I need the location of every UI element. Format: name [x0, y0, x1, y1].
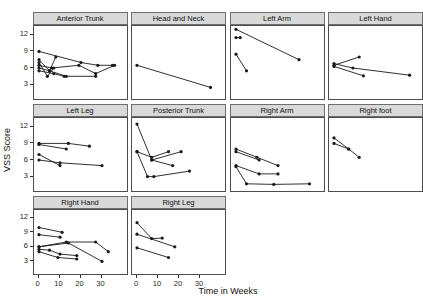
data-point	[307, 182, 310, 185]
facet-panel	[328, 25, 423, 100]
y-axis-tick-label: 9	[14, 47, 28, 55]
y-axis-tick-label: 12	[14, 30, 28, 38]
data-line	[137, 234, 175, 247]
facet-plot-area	[329, 118, 422, 191]
data-point	[58, 253, 61, 256]
data-point	[276, 164, 279, 167]
y-axis-tick-mark	[30, 84, 33, 85]
data-point	[332, 142, 335, 145]
data-point	[297, 58, 300, 61]
data-line	[39, 235, 60, 238]
x-axis-tick-label: 30	[93, 280, 109, 288]
facet-label: Left Hand	[359, 15, 392, 23]
x-axis-tick-mark	[101, 275, 102, 278]
x-axis-tick-mark	[59, 275, 60, 278]
facet-strip: Posterior Trunk	[131, 104, 226, 117]
data-point	[37, 143, 40, 146]
facet-panel	[33, 117, 128, 192]
facet-head-and-neck: Head and Neck	[131, 12, 226, 100]
data-point	[37, 233, 40, 236]
y-axis-tick-mark	[30, 176, 33, 177]
facet-plot-area	[132, 210, 225, 274]
facet-label: Anterior Trunk	[56, 15, 103, 23]
data-point	[54, 55, 57, 58]
facet-panel	[230, 25, 325, 100]
x-axis-tick-mark	[38, 275, 39, 278]
data-point	[135, 123, 138, 126]
y-axis-tick-label: 3	[14, 257, 28, 265]
data-point	[37, 61, 40, 64]
data-point	[180, 150, 183, 153]
data-point	[332, 136, 335, 139]
data-point	[58, 161, 61, 164]
y-axis-tick-label: 12	[14, 122, 28, 130]
facet-right-foot: Right foot	[328, 104, 423, 192]
facet-plot-area	[231, 26, 324, 99]
y-axis-tick-mark	[30, 159, 33, 160]
data-line	[39, 228, 62, 233]
data-point	[347, 147, 350, 150]
y-axis-tick-mark	[30, 260, 33, 261]
data-point	[79, 61, 82, 64]
data-point	[64, 147, 67, 150]
x-axis-tick-mark	[199, 275, 200, 278]
data-point	[362, 74, 365, 77]
data-point	[87, 145, 90, 148]
data-point	[94, 75, 97, 78]
data-point	[408, 74, 411, 77]
data-point	[66, 142, 69, 145]
data-point	[167, 150, 170, 153]
data-point	[94, 240, 97, 243]
data-point	[37, 226, 40, 229]
facet-strip: Anterior Trunk	[33, 12, 128, 25]
data-point	[188, 170, 191, 173]
data-point	[37, 250, 40, 253]
facet-panel	[131, 117, 226, 192]
y-axis-tick-mark	[30, 217, 33, 218]
x-axis-tick-label: 0	[30, 280, 46, 288]
data-point	[58, 164, 61, 167]
data-point	[135, 64, 138, 67]
data-point	[77, 64, 80, 67]
facet-panel	[328, 117, 423, 192]
data-point	[58, 236, 61, 239]
x-axis-tick-mark	[178, 275, 179, 278]
facet-strip: Right Leg	[131, 196, 226, 209]
data-line	[39, 145, 66, 150]
data-point	[209, 86, 212, 89]
facet-label: Left Arm	[263, 15, 291, 23]
data-point	[173, 245, 176, 248]
data-point	[75, 254, 78, 257]
data-point	[257, 172, 260, 175]
data-point	[100, 260, 103, 263]
data-point	[171, 164, 174, 167]
y-axis-tick-mark	[30, 50, 33, 51]
data-point	[272, 183, 275, 186]
facet-left-leg: Left Leg	[33, 104, 128, 192]
x-axis-tick-label: 10	[149, 280, 165, 288]
data-point	[234, 53, 237, 56]
facet-panel	[131, 25, 226, 100]
facet-panel	[131, 209, 226, 275]
facet-panel	[33, 209, 128, 275]
data-point	[37, 66, 40, 69]
facet-strip: Right foot	[328, 104, 423, 117]
data-point	[244, 182, 247, 185]
facet-left-arm: Left Arm	[230, 12, 325, 100]
facet-posterior-trunk: Posterior Trunk	[131, 104, 226, 192]
data-line	[334, 143, 349, 149]
facet-label: Right foot	[359, 107, 391, 115]
facet-plot-area	[132, 26, 225, 99]
y-axis-tick-mark	[30, 246, 33, 247]
facet-right-arm: Right Arm	[230, 104, 325, 192]
data-point	[75, 257, 78, 260]
data-point	[358, 55, 361, 58]
facet-panel	[230, 117, 325, 192]
faceted-line-chart: VSS Score Anterior TrunkHead and NeckLef…	[0, 0, 423, 297]
data-point	[234, 165, 237, 168]
data-line	[39, 51, 113, 65]
data-point	[66, 241, 69, 244]
data-line	[236, 54, 247, 71]
data-point	[152, 175, 155, 178]
y-axis-tick-mark	[30, 67, 33, 68]
